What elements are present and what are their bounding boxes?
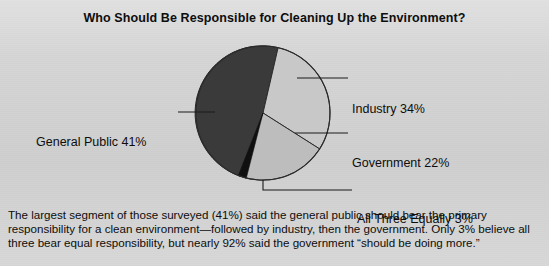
pie-label-government: Government 22% [352,156,449,170]
pie-label-general-public: General Public 41% [36,135,146,149]
figure-page: Who Should Be Responsible for Cleaning U… [0,0,549,266]
pie-label-industry: Industry 34% [352,102,425,116]
figure-caption: The largest segment of those surveyed (4… [8,208,542,251]
leader-line-all-three-equally [263,180,352,190]
pie-chart-svg [0,30,549,202]
chart-title: Who Should Be Responsible for Cleaning U… [0,11,549,25]
pie-chart-figure: Industry 34% Government 22% All Three Eq… [0,30,549,202]
